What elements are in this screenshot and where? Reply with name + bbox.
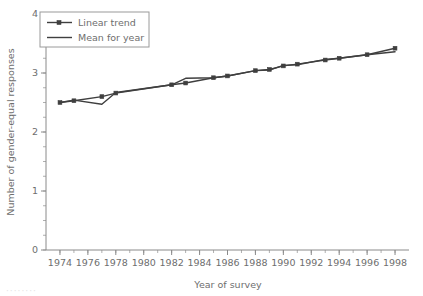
- y-axis-title: Number of gender-equal responses: [5, 48, 16, 215]
- data-point-marker: [100, 95, 104, 99]
- x-tick-label: 1992: [299, 257, 323, 268]
- x-tick-label: 1980: [132, 257, 156, 268]
- x-tick-label: 1986: [215, 257, 239, 268]
- x-tick-label: 1976: [76, 257, 100, 268]
- x-tick-label: 1994: [327, 257, 351, 268]
- x-tick-label: 1982: [160, 257, 184, 268]
- data-point-marker: [184, 81, 188, 85]
- x-tick-label: 1984: [187, 257, 211, 268]
- legend-marker-linear-trend: [57, 21, 61, 25]
- x-axis-title: Year of survey: [193, 279, 262, 290]
- y-tick-label: 2: [32, 126, 38, 137]
- x-tick-label: 1996: [355, 257, 379, 268]
- data-series-group: [58, 46, 397, 104]
- x-tick-label: 1998: [383, 257, 407, 268]
- line-chart: 01234 1974197619781980198219841986198819…: [0, 0, 423, 296]
- x-axis-tick-labels: 1974197619781980198219841986198819901992…: [48, 257, 407, 268]
- x-tick-label: 1974: [48, 257, 72, 268]
- y-tick-label: 4: [32, 8, 38, 19]
- y-tick-label: 0: [32, 244, 38, 255]
- y-axis-major-ticks: [41, 14, 46, 250]
- x-tick-label: 1978: [104, 257, 128, 268]
- x-tick-label: 1990: [271, 257, 295, 268]
- legend-label-linear-trend: Linear trend: [78, 17, 136, 28]
- chart-legend: Linear trend Mean for year: [40, 12, 149, 47]
- caption-partial: ········: [6, 286, 116, 294]
- data-point-marker: [393, 46, 397, 50]
- x-tick-label: 1988: [243, 257, 267, 268]
- y-tick-label: 1: [32, 185, 38, 196]
- chart-figure: 01234 1974197619781980198219841986198819…: [0, 0, 423, 296]
- x-axis-major-ticks: [60, 250, 395, 255]
- y-tick-label: 3: [32, 67, 38, 78]
- legend-label-mean-for-year: Mean for year: [78, 32, 144, 43]
- y-axis-tick-labels: 01234: [32, 8, 38, 255]
